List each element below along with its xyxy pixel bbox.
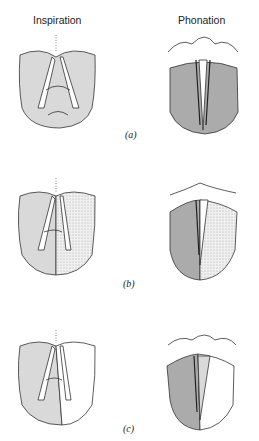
larynx-diagram: (a) (b) (c) <box>0 0 259 441</box>
caption-c: (c) <box>123 423 135 435</box>
caption-b: (b) <box>123 278 135 290</box>
panel-c-inspiration <box>18 330 95 425</box>
caption-a: (a) <box>125 129 137 141</box>
panel-b-inspiration <box>18 178 95 275</box>
panel-a-phonation <box>168 37 238 134</box>
panel-c-phonation <box>167 335 236 430</box>
panel-b-phonation <box>170 183 237 280</box>
panel-a-inspiration <box>19 35 95 128</box>
